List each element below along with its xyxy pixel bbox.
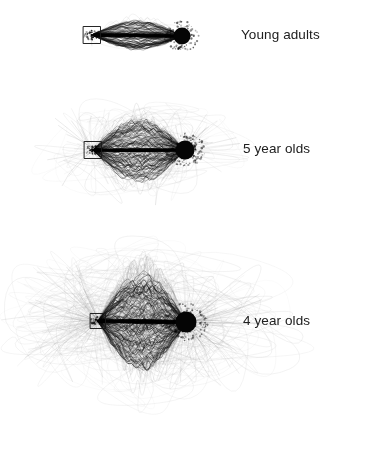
trajectory-figure: Young adults 5 year olds 4 year olds <box>0 0 367 467</box>
panel-label-5-year-olds: 5 year olds <box>243 141 310 156</box>
trajectory-plot-canvas <box>0 0 367 467</box>
panel-label-young-adults: Young adults <box>241 27 320 42</box>
panel-label-4-year-olds: 4 year olds <box>243 313 310 328</box>
